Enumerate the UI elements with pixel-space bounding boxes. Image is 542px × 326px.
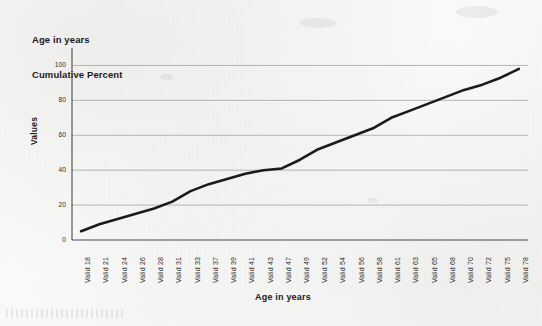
y-tick-label: 100 — [40, 61, 66, 68]
y-tick-label: 40 — [40, 166, 66, 173]
gridlines-group — [72, 65, 528, 205]
data-series-line — [81, 69, 519, 231]
y-tick-label: 20 — [40, 201, 66, 208]
y-tick-label: 0 — [40, 236, 66, 243]
y-tick-label: 60 — [40, 131, 66, 138]
y-tick-label: 80 — [40, 96, 66, 103]
chart-plot-area — [0, 0, 542, 326]
